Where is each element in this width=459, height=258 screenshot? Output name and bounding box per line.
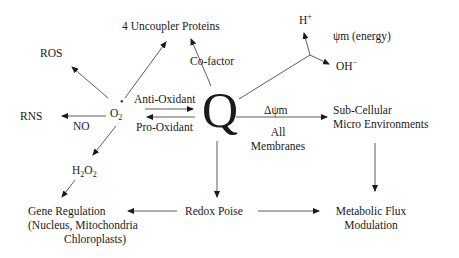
h2o2-sub-2: 2: [93, 170, 97, 179]
node-h-plus: H+: [299, 13, 312, 27]
label-all-membranes: All Membranes: [250, 125, 306, 153]
node-h2o2: H2O2: [72, 163, 97, 177]
gene-line-1: Gene Regulation: [28, 204, 162, 218]
node-rns: RNS: [20, 109, 42, 123]
node-ros: ROS: [40, 46, 62, 60]
node-uncoupler-proteins: 4 Uncoupler Proteins: [122, 19, 220, 33]
node-psi-energy: ψm (energy): [333, 29, 391, 43]
label-antioxidant: Anti-Oxidant: [134, 92, 195, 106]
label-delta-psi: Δψm: [264, 103, 288, 117]
h2o2-o: O: [84, 164, 92, 176]
label-no: NO: [73, 119, 90, 133]
edge-q-branch: [239, 55, 310, 99]
radical-dot-icon: •: [120, 95, 124, 109]
subcellular-line-1: Sub-Cellular: [333, 103, 429, 117]
node-gene-regulation: Gene Regulation (Nucleus, Mitochondria C…: [28, 204, 162, 246]
edge-o2-uncoupler: [125, 42, 166, 98]
membranes-text: Membranes: [250, 139, 306, 153]
node-metabolic-flux: Metabolic Flux Modulation: [326, 204, 416, 232]
minus-superscript: −: [353, 58, 358, 67]
plus-superscript: +: [307, 12, 312, 21]
oh-symbol: OH: [336, 60, 353, 72]
gene-line-3: Chloroplasts): [28, 232, 162, 246]
node-redox-poise: Redox Poise: [185, 204, 243, 218]
edge-branch-hplus: [304, 33, 310, 55]
node-oh-minus: OH−: [336, 59, 357, 73]
o2-subscript: 2: [118, 113, 122, 122]
edge-o2-h2o2: [93, 126, 116, 155]
subcellular-line-2: Micro Environments: [333, 117, 429, 131]
flux-line-1: Metabolic Flux: [326, 204, 416, 218]
node-q: Q: [202, 85, 238, 135]
label-prooxidant: Pro-Oxidant: [136, 120, 193, 134]
edge-h2o2-gene: [62, 180, 75, 197]
flux-line-2: Modulation: [326, 218, 416, 232]
all-text: All: [250, 125, 306, 139]
label-cofactor: Co-factor: [190, 54, 234, 68]
edge-o2-ros: [72, 67, 108, 98]
edge-branch-ohminus: [310, 55, 329, 64]
gene-line-2: (Nucleus, Mitochondria: [28, 218, 162, 232]
node-subcellular: Sub-Cellular Micro Environments: [333, 103, 429, 131]
